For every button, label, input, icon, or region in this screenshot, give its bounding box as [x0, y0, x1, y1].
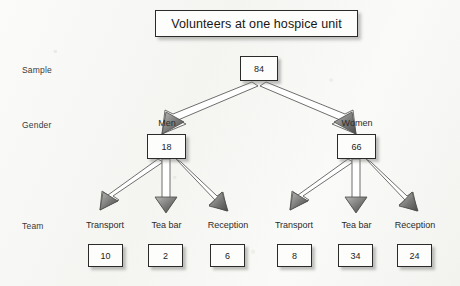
- node-value-reception-women: 24: [397, 244, 432, 267]
- node-value-teabar-men: 2: [148, 244, 183, 267]
- node-label-teabar-women: Tea bar: [334, 220, 379, 230]
- node-label-reception-women: Reception: [386, 220, 444, 230]
- node-label-transport-men: Transport: [76, 220, 134, 230]
- node-value-transport-women: 8: [277, 244, 312, 267]
- node-value-men: 18: [147, 134, 186, 159]
- node-label-women: Women: [337, 118, 377, 128]
- node-label-men: Men: [148, 118, 186, 128]
- arrowhead-teabar-right: [345, 197, 367, 213]
- node-value-women: 66: [337, 134, 376, 159]
- diagram-title: Volunteers at one hospice unit: [155, 10, 358, 37]
- node-value-reception-men: 6: [210, 244, 245, 267]
- arrowhead-teabar-left: [155, 197, 177, 213]
- node-value-transport-men: 10: [88, 244, 123, 267]
- node-sample-value: 84: [240, 56, 278, 81]
- row-label-sample: Sample: [22, 65, 52, 75]
- row-label-gender: Gender: [22, 120, 52, 130]
- node-label-teabar-men: Tea bar: [144, 220, 189, 230]
- diagram-canvas: Volunteers at one hospice unit Sample Ge…: [0, 0, 460, 286]
- node-value-teabar-women: 34: [338, 244, 373, 267]
- row-label-team: Team: [22, 221, 44, 231]
- node-label-reception-men: Reception: [199, 220, 257, 230]
- node-label-transport-women: Transport: [265, 220, 323, 230]
